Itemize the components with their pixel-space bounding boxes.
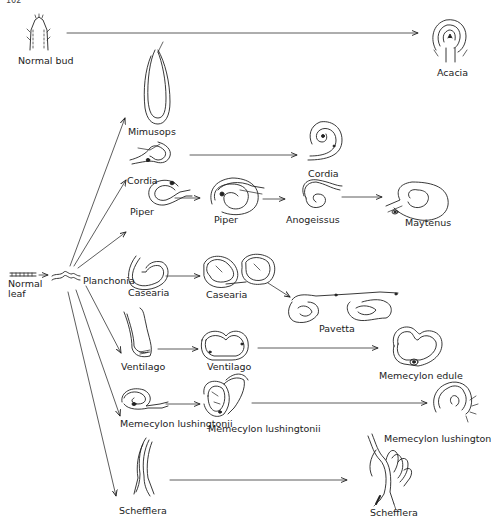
normal-bud-icon — [27, 14, 50, 50]
label-cordia-1: Cordia — [127, 176, 158, 186]
memecylon-edule-icon — [393, 327, 442, 366]
label-schefflera-2: Schefflera — [370, 508, 418, 518]
label-schefflera-1: Schefflera — [119, 506, 167, 516]
label-casearia-2: Casearia — [206, 290, 247, 300]
arrow-planchonia-to-piper — [78, 232, 126, 268]
arrow-planchonia-to-mimusops — [70, 118, 125, 266]
label-acacia: Acacia — [437, 68, 468, 78]
memecylon-lush-early-icon — [122, 389, 168, 409]
piper-late-icon — [211, 178, 264, 215]
schefflera-late-icon — [368, 434, 412, 510]
label-ventilago-1: Ventilago — [121, 362, 165, 372]
ventilago-early-icon — [124, 308, 151, 357]
label-memecylon-lush-2: Memecylon lushingtonii — [208, 424, 321, 434]
label-normal-bud: Normal bud — [18, 56, 73, 66]
label-cordia-2: Cordia — [308, 169, 339, 179]
label-normal-leaf: Normal leaf — [8, 279, 40, 299]
label-piper-2: Piper — [214, 215, 238, 225]
schefflera-early-icon — [134, 438, 154, 496]
label-casearia-1: Casearia — [128, 288, 169, 298]
arrow-planchonia-to-ventilago — [86, 286, 121, 353]
memecylon-lush-late-icon — [204, 374, 248, 416]
label-anogeissus: Anogeissus — [286, 215, 340, 225]
cordia-late-icon — [308, 122, 342, 160]
label-planchonia: Planchonia — [83, 276, 135, 286]
normal-leaf-icon — [10, 273, 36, 276]
acacia-icon — [433, 20, 467, 62]
label-maytenus: Maytenus — [405, 218, 451, 228]
label-ventilago-2: Ventilago — [207, 362, 251, 372]
label-mimusops: Mimusops — [128, 127, 176, 137]
maytenus-icon — [386, 182, 448, 220]
label-memecylon-edule: Memecylon edule — [379, 371, 463, 381]
ventilago-late-icon — [201, 331, 248, 360]
memecylon-lush-final-icon — [434, 382, 478, 422]
page-number: 162 — [6, 0, 21, 5]
arrow-planchonia-to-schefflera — [68, 292, 116, 496]
label-pavetta: Pavetta — [319, 324, 355, 334]
arrow-planchonia-to-cordia — [74, 180, 126, 266]
casearia-late-icon — [204, 254, 275, 287]
label-memecylon-lush-3: Memecylon lushington — [384, 434, 491, 444]
arrow-casearia-to-pavetta — [268, 283, 290, 297]
mimusops-icon — [144, 42, 170, 124]
anogeissus-icon — [303, 180, 342, 208]
cordia-early-icon — [130, 142, 170, 164]
pavetta-icon — [289, 292, 398, 323]
planchonia-icon — [52, 271, 80, 280]
label-piper-1: Piper — [130, 207, 154, 217]
